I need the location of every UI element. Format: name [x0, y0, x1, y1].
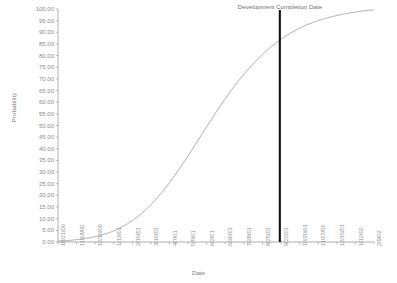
x-tick-label: 3/10/01 [153, 227, 159, 246]
x-tick-label: 8/25/01 [265, 227, 271, 246]
x-tick-label: 6/2/01 [209, 230, 215, 246]
x-tick-label: 11/17/01 [320, 225, 326, 246]
x-tick-label: 1/12/02 [358, 227, 364, 246]
x-tick-label: 10/21/00 [60, 224, 66, 246]
x-tick-label: 11/18/00 [79, 225, 85, 246]
x-tick-label: 6/30/01 [227, 227, 233, 246]
x-tick-label: 1/13/01 [116, 227, 122, 246]
x-tick-label: 10/20/01 [302, 224, 308, 246]
x-tick-label: 9/22/01 [283, 227, 289, 246]
annotation-label: Development Completion Date [238, 3, 322, 10]
x-tick-label: 12/16/00 [97, 224, 103, 246]
x-tick-label: 4/7/01 [172, 230, 178, 246]
x-tick-label: 12/15/01 [339, 224, 345, 246]
probability-s-curve-chart: Probability Date 100.0095.0090.0085.0080… [0, 0, 397, 283]
x-tick-label: 2/10/01 [135, 227, 141, 246]
x-tick-label: 2/9/02 [376, 230, 382, 246]
x-tick-label: 7/28/01 [246, 227, 252, 246]
x-tick-label: 5/5/01 [190, 230, 196, 246]
x-axis-tick-labels: 10/21/0011/18/0012/16/001/13/012/10/013/… [0, 0, 397, 283]
